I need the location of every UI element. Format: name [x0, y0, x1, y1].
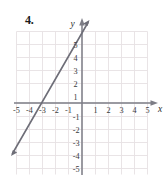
coordinate-plane: -5 -4 -3 -2 -1 1 2 3 4 5 5 4 3 2 1 -1 -2 — [0, 0, 166, 181]
y-axis-arrowhead — [79, 18, 85, 26]
y-tick-label: -2 — [73, 126, 80, 135]
y-tick-label: 4 — [73, 54, 77, 63]
y-tick-label: 2 — [73, 80, 77, 89]
x-tick-label: 3 — [119, 106, 123, 115]
y-axis-label: y — [69, 19, 75, 29]
y-tick-label: 1 — [73, 93, 77, 102]
y-tick-label: -4 — [73, 152, 80, 161]
plotted-line — [11, 20, 90, 156]
y-tick-label: -1 — [73, 113, 80, 122]
axes — [14, 18, 158, 175]
y-tick-labels: 5 4 3 2 1 -1 -2 -3 -4 -5 — [73, 41, 80, 174]
figure-root: 4. — [0, 0, 166, 181]
x-tick-label: 4 — [132, 106, 136, 115]
y-tick-label: 5 — [73, 41, 77, 50]
x-tick-label: -4 — [26, 106, 33, 115]
x-tick-label: -1 — [65, 106, 72, 115]
x-axis-arrowhead — [151, 100, 159, 106]
y-tick-label: -3 — [73, 139, 80, 148]
coordinate-plane-svg: -5 -4 -3 -2 -1 1 2 3 4 5 5 4 3 2 1 -1 -2 — [0, 0, 166, 181]
x-tick-label: -3 — [39, 106, 46, 115]
y-tick-label: -5 — [73, 165, 80, 174]
x-tick-label: 5 — [145, 106, 149, 115]
x-tick-label: 2 — [106, 106, 110, 115]
x-axis-label: x — [157, 104, 163, 114]
x-tick-label: -5 — [13, 106, 20, 115]
x-tick-label: -2 — [52, 106, 59, 115]
x-tick-label: 1 — [93, 106, 97, 115]
y-tick-label: 3 — [73, 67, 77, 76]
